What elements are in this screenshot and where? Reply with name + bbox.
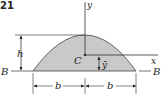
y-axis-label: y [86, 0, 93, 10]
base-right-label: B [152, 66, 160, 77]
problem-number: 21 [0, 0, 14, 11]
height-label: h [17, 48, 23, 59]
half-width-left-label: b [55, 80, 61, 91]
base-left-label: B [0, 66, 8, 77]
half-width-right-label: b [107, 80, 113, 91]
centroid-label: C [74, 55, 82, 66]
shaded-area [33, 35, 136, 71]
centroid-point [84, 54, 86, 56]
ybar-label: ȳ [101, 60, 108, 70]
x-axis-label: x [151, 56, 156, 66]
semi-parabolic-area-diagram: 21 y x C ȳ h B B b b [0, 0, 163, 106]
